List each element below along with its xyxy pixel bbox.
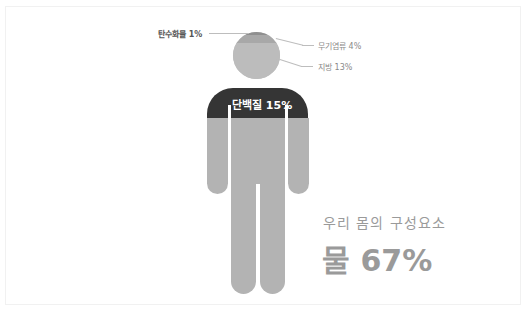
minerals-label: 무기염류 4% (318, 40, 361, 51)
carbohydrate-leader-line (209, 33, 249, 34)
fat-segment (233, 43, 280, 79)
left-arm-gap (228, 105, 231, 194)
left-leg (231, 182, 256, 294)
carbohydrate-label: 탄수화물 1% (158, 28, 202, 39)
protein-label: 단백질 15% (232, 96, 284, 112)
right-arm (288, 118, 309, 194)
minerals-segment (233, 35, 280, 43)
fat-label: 지방 13% (318, 61, 352, 72)
torso (231, 118, 285, 184)
water-headline: 물 67% (322, 236, 432, 280)
minerals-leader-line-end (302, 45, 314, 46)
left-arm (207, 118, 228, 194)
figure-head (233, 32, 280, 79)
diagram-title: 우리 몸의 구성요소 (323, 212, 446, 232)
right-leg (260, 182, 285, 294)
right-arm-gap (285, 105, 288, 194)
fat-leader-line-end (301, 66, 313, 67)
